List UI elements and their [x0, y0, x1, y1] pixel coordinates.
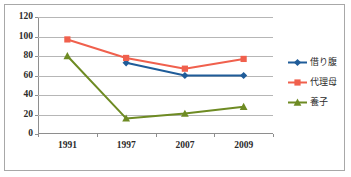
- x-axis-tick-label: 2007: [175, 141, 194, 151]
- x-axis-tick-label: 1991: [58, 141, 77, 151]
- chart-canvas: 020406080100120 1991199720072009 借り腹代理母養…: [5, 5, 344, 170]
- series-line: [67, 56, 243, 118]
- data-point-marker: [123, 55, 129, 61]
- legend-item[interactable]: 借り腹: [288, 52, 344, 72]
- y-axis-tick-label: 100: [19, 32, 33, 42]
- legend-marker-icon: [288, 77, 307, 88]
- x-axis-tick-mark: [273, 134, 274, 137]
- chart-outer-frame: 020406080100120 1991199720072009 借り腹代理母養…: [4, 4, 345, 171]
- y-axis-tick-label: 120: [19, 12, 33, 22]
- legend-label: 代理母: [310, 78, 337, 87]
- series-plot: [38, 17, 273, 134]
- legend-label: 借り腹: [310, 58, 337, 67]
- x-axis-tick-mark: [214, 134, 215, 137]
- x-axis-tick-mark: [38, 134, 39, 137]
- y-axis-tick-label: 20: [24, 110, 34, 120]
- y-axis-tick-label: 0: [28, 129, 33, 139]
- data-point-marker: [181, 72, 188, 79]
- x-axis-tick-label: 2009: [234, 141, 253, 151]
- data-point-marker: [241, 56, 247, 62]
- legend-item[interactable]: 養子: [288, 92, 344, 112]
- legend-marker-shape: [294, 58, 301, 65]
- legend-marker-icon: [288, 97, 307, 108]
- data-point-marker: [64, 36, 70, 42]
- legend-marker-icon: [288, 57, 307, 68]
- x-axis-tick-mark: [97, 134, 98, 137]
- x-axis-tick-mark: [156, 134, 157, 137]
- data-point-marker: [240, 72, 247, 79]
- plot-area: 020406080100120 1991199720072009: [38, 17, 273, 134]
- x-axis-tick-label: 1997: [117, 141, 136, 151]
- data-point-marker: [63, 52, 71, 59]
- y-axis-tick-label: 40: [24, 90, 34, 100]
- y-axis-tick-label: 60: [24, 71, 34, 81]
- chart-legend: 借り腹代理母養子: [288, 52, 344, 112]
- data-point-marker: [182, 66, 188, 72]
- legend-marker-shape: [294, 79, 300, 85]
- y-axis-tick-label: 80: [24, 51, 34, 61]
- legend-item[interactable]: 代理母: [288, 72, 344, 92]
- series-line: [67, 39, 243, 68]
- legend-label: 養子: [310, 98, 328, 107]
